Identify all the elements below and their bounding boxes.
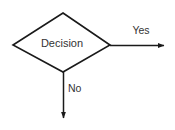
decision-node-label: Decision <box>0 38 124 49</box>
flowchart-canvas: Decision Yes No <box>0 0 175 130</box>
no-branch-label: No <box>68 83 81 94</box>
flowchart-svg <box>0 0 175 130</box>
yes-branch-label: Yes <box>110 25 172 36</box>
